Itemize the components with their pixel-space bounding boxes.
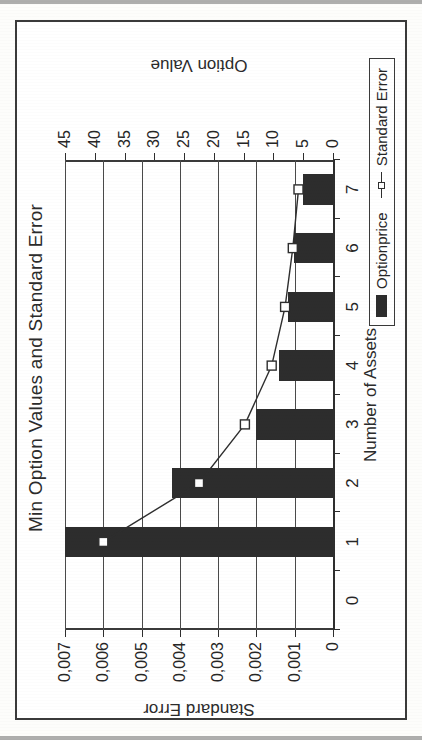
x-axis-tick-label: 6 [343,243,363,252]
x-axis-tick-label: 7 [343,185,363,194]
legend: Optionprice Standard Error [369,58,395,326]
legend-item-standard-error: Standard Error [373,68,390,198]
right-axis-tick [65,153,66,160]
x-axis-tick [333,218,340,219]
x-axis-tick [333,394,340,395]
right-axis-tick-label: 40 [86,130,104,148]
scan-edge-bottom [0,736,422,740]
right-axis-tick-label: 0 [324,139,342,148]
scanned-page: Min Option Values and Standard Error Sta… [0,0,422,740]
left-axis-tick-label: 0,007 [56,642,74,682]
data-point-marker [240,420,249,429]
legend-line-marker-icon [376,172,387,198]
left-axis-tick [180,630,181,637]
x-axis-tick [333,570,340,571]
left-axis-tick-label: 0,006 [94,642,112,682]
data-point-marker [267,361,276,370]
left-axis-tick [142,630,143,637]
data-point-marker [99,537,108,546]
x-axis-tick-label: 4 [343,361,363,370]
legend-item-optionprice: Optionprice [373,212,390,317]
data-point-marker [294,185,303,194]
chart-figure: Min Option Values and Standard Error Sta… [15,20,407,720]
x-axis-tick-label: 2 [343,478,363,487]
scan-edge-top [0,0,422,4]
x-axis-tick-label: 5 [343,302,363,311]
right-axis-tick [154,153,155,160]
right-axis-tick-label: 35 [116,130,134,148]
x-axis-tick-label: 0 [343,596,363,605]
right-axis-tick [214,153,215,160]
right-axis-tick [95,153,96,160]
left-axis-tick [295,630,296,637]
x-axis-tick-label: 1 [343,537,363,546]
left-axis-tick-label: 0,001 [286,642,304,682]
left-axis-tick [333,630,334,637]
legend-bar-swatch-icon [376,295,387,317]
left-axis-tick-label: 0 [324,642,342,651]
left-axis-tick-label: 0,005 [133,642,151,682]
legend-label-standard-error: Standard Error [373,68,390,166]
left-axis-tick-label: 0,004 [171,642,189,682]
rotated-figure-container: Min Option Values and Standard Error Sta… [15,20,407,720]
right-axis-tick [125,153,126,160]
right-axis-tick-label: 45 [56,130,74,148]
data-point-marker [195,479,204,488]
left-axis-tick-label: 0,002 [247,642,265,682]
right-axis-tick-label: 30 [145,130,163,148]
data-point-marker [288,244,297,253]
baseline-axis [333,160,335,630]
chart-title: Min Option Values and Standard Error [25,18,47,718]
left-axis-tick [218,630,219,637]
right-axis-tick-label: 15 [235,130,253,148]
data-point-marker [281,302,290,311]
right-axis-tick [244,153,245,160]
right-axis-tick [303,153,304,160]
right-axis-tick-label: 20 [205,130,223,148]
x-axis-tick [333,453,340,454]
x-axis-tick [333,277,340,278]
left-axis-tick [65,630,66,637]
x-axis-tick [333,629,340,630]
left-axis-tick [256,630,257,637]
legend-label-optionprice: Optionprice [373,212,390,289]
x-axis-tick-label: 3 [343,420,363,429]
right-axis-tick-label: 25 [175,130,193,148]
right-axis-tick-label: 5 [294,139,312,148]
line-series-standard-error [65,160,333,630]
right-axis-tick [184,153,185,160]
right-axis-tick [273,153,274,160]
x-axis-tick [333,159,340,160]
plot-area: 00,0010,0020,0030,0040,0050,0060,007 051… [65,160,333,630]
x-axis-tick [333,512,340,513]
left-axis-title-text: Standard Error [143,699,255,719]
x-axis-tick [333,335,340,336]
left-axis-title: Standard Error [65,698,333,720]
left-axis-tick-label: 0,003 [209,642,227,682]
right-axis-title: Option Value [150,55,247,75]
left-axis-tick [103,630,104,637]
right-axis-tick-label: 10 [264,130,282,148]
